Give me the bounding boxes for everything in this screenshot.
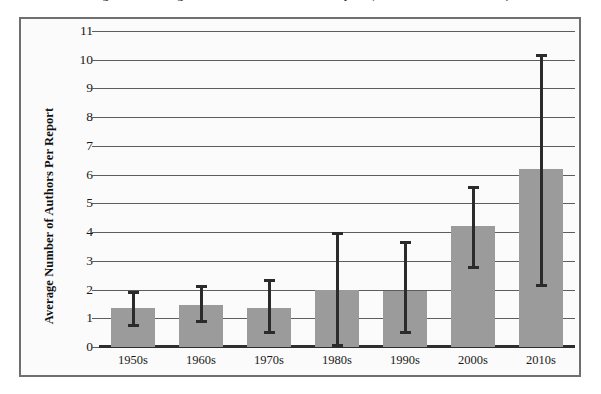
error-bar-cap-upper (196, 285, 207, 288)
x-axis-tick-label: 1990s (371, 353, 439, 368)
error-bar-cap-upper (332, 232, 343, 235)
x-axis-tick-label: 1950s (99, 353, 167, 368)
error-bar-line (132, 291, 135, 327)
y-axis-tick-label: 8 (59, 110, 93, 124)
bar-group (507, 31, 575, 347)
error-bar-cap-upper (468, 186, 479, 189)
x-axis-tick-label: 1980s (303, 353, 371, 368)
y-axis-tick-label: 3 (59, 254, 93, 268)
y-axis-tick-mark (92, 232, 99, 233)
chart-title-text: Figure 1. Average Number of Authors Per … (90, 0, 510, 2)
y-axis-tick-mark (92, 203, 99, 204)
bar-group (235, 31, 303, 347)
y-axis-tick-label: 2 (59, 283, 93, 297)
y-axis-title: Average Number of Authors Per Report (39, 36, 59, 394)
bar-group (167, 31, 235, 347)
error-bar-cap-upper (264, 279, 275, 282)
y-axis-tick-label: 9 (59, 82, 93, 96)
error-bar-line (472, 186, 475, 269)
y-axis-tick-mark (92, 290, 99, 291)
error-bar-line (404, 241, 407, 334)
y-axis-tick-mark (92, 175, 99, 176)
y-axis-tick-label: 7 (59, 139, 93, 153)
y-axis-tick-label: 6 (59, 168, 93, 182)
x-axis-tick-label: 2010s (507, 353, 575, 368)
bar-group (371, 31, 439, 347)
y-axis-tick-mark (92, 60, 99, 61)
plot-area (99, 31, 575, 347)
y-axis-tick-mark (92, 88, 99, 89)
bar-group (303, 31, 371, 347)
x-axis-tick-labels: 1950s1960s1970s1980s1990s2000s2010s (99, 353, 575, 373)
error-bar-line (268, 279, 271, 334)
error-bar-cap-lower (468, 266, 479, 269)
bar-group (439, 31, 507, 347)
y-axis-tick-mark (92, 117, 99, 118)
y-axis-tick-mark (92, 31, 99, 32)
chart-title-cropped: Figure 1. Average Number of Authors Per … (0, 0, 601, 14)
error-bar-cap-lower (128, 324, 139, 327)
x-axis-tick-label: 2000s (439, 353, 507, 368)
bar-group (99, 31, 167, 347)
error-bar-cap-lower (332, 344, 343, 347)
y-axis-tick-label: 4 (59, 225, 93, 239)
y-axis-tick-mark (92, 347, 99, 348)
x-axis-tick-label: 1970s (235, 353, 303, 368)
error-bar-cap-upper (536, 54, 547, 57)
y-axis-tick-label: 0 (59, 340, 93, 354)
x-axis-tick-label: 1960s (167, 353, 235, 368)
chart-frame: Average Number of Authors Per Report 012… (19, 17, 581, 377)
bar-series (99, 31, 575, 347)
error-bar-cap-upper (128, 291, 139, 294)
y-axis-tick-label: 5 (59, 197, 93, 211)
y-axis-tick-mark (92, 318, 99, 319)
y-axis-tick-mark (92, 146, 99, 147)
error-bar-cap-lower (400, 331, 411, 334)
y-axis-tick-labels: 01234567891011 (57, 19, 93, 379)
y-axis-tick-label: 11 (59, 24, 93, 38)
error-bar-cap-lower (196, 320, 207, 323)
error-bar-cap-upper (400, 241, 411, 244)
error-bar-cap-lower (536, 284, 547, 287)
y-axis-tick-label: 10 (59, 53, 93, 67)
y-axis-tick-mark (92, 261, 99, 262)
error-bar-line (336, 232, 339, 347)
error-bar-cap-lower (264, 331, 275, 334)
error-bar-line (540, 54, 543, 287)
y-axis-tick-label: 1 (59, 312, 93, 326)
error-bar-line (200, 285, 203, 322)
